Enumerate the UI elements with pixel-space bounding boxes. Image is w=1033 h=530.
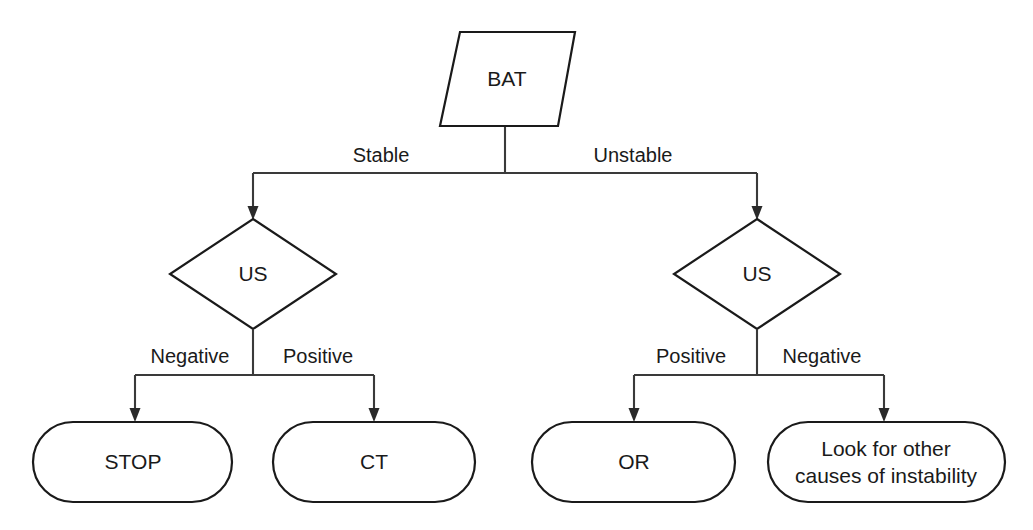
edge-label-negative-left: Negative [151,345,230,367]
node-ct[interactable]: CT [273,422,475,502]
us-left-label: US [238,262,267,285]
node-us-right[interactable]: US [674,219,840,329]
edge-label-negative-right: Negative [783,345,862,367]
node-other-causes[interactable]: Look for other causes of instability [768,422,1005,502]
edge-label-positive-right: Positive [656,345,726,367]
arrowhead-to-other-causes [879,408,890,422]
or-label: OR [618,450,650,473]
flowchart-canvas: BAT US US STOP CT OR Look [0,0,1033,530]
edge-label-stable: Stable [353,144,410,166]
arrowhead-to-or [629,408,640,422]
node-stop[interactable]: STOP [33,422,232,502]
other-causes-label-line1: Look for other [821,437,951,460]
bat-label: BAT [487,67,526,90]
node-us-left[interactable]: US [170,219,336,329]
edge-label-unstable: Unstable [594,144,673,166]
arrowhead-to-ct [369,408,380,422]
node-or[interactable]: OR [532,422,735,502]
ct-label: CT [360,450,388,473]
arrowhead-to-stop [130,408,141,422]
other-causes-label-line2: causes of instability [795,464,978,487]
edge-label-positive-left: Positive [283,345,353,367]
stop-label: STOP [105,450,162,473]
other-causes-stadium [768,422,1005,502]
flowchart-diagram: BAT US US STOP CT OR Look [0,0,1033,530]
node-bat[interactable]: BAT [440,32,575,126]
us-right-label: US [742,262,771,285]
